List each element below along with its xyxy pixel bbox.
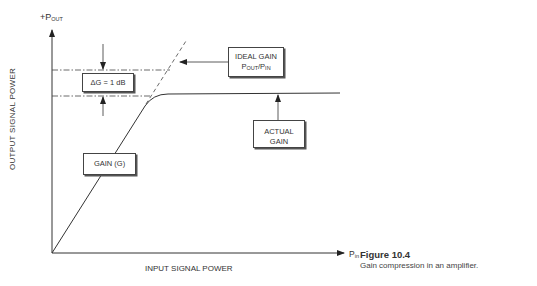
caption-title: Figure 10.4 <box>360 249 478 260</box>
delta-g-box: ΔG = 1 dB <box>82 73 134 92</box>
y-axis-title: OUTPUT SIGNAL POWER <box>8 68 17 170</box>
ideal-gain-formula: POUT/PIN <box>241 62 270 73</box>
ideal-gain-box: IDEAL GAIN POUT/PIN <box>228 47 284 77</box>
caption-text: Gain compression in an amplifier. <box>360 261 478 270</box>
figure-caption: Figure 10.4 Gain compression in an ampli… <box>360 249 478 270</box>
x-axis-label: Pin <box>349 249 359 259</box>
y-axis-label: +POUT <box>40 12 63 22</box>
x-axis-title: INPUT SIGNAL POWER <box>145 264 233 273</box>
actual-gain-box: ACTUAL GAIN <box>253 120 305 148</box>
gain-g-box: GAIN (G) <box>83 153 136 175</box>
